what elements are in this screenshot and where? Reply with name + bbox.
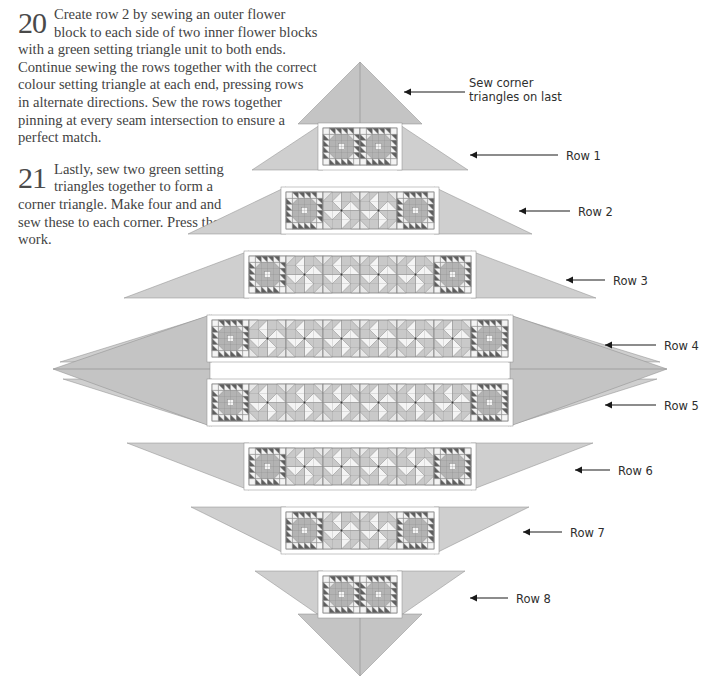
flower-corner-cell xyxy=(243,320,249,326)
flower-corner-cell xyxy=(428,543,434,549)
flower-corner-cell xyxy=(391,159,397,165)
flower-corner-cell xyxy=(434,287,440,293)
flower-corner-cell xyxy=(397,512,403,518)
flower-corner-cell xyxy=(280,448,286,454)
quilt-row xyxy=(249,448,471,485)
flower-corner-cell xyxy=(317,512,323,518)
flower-corner-cell xyxy=(397,543,403,549)
flower-corner-cell xyxy=(471,351,477,357)
callout-arrow-row-7 xyxy=(523,529,562,536)
setting-triangle-right xyxy=(471,443,593,490)
flower-corner-cell xyxy=(434,479,440,485)
callout-arrow-row-5 xyxy=(605,402,656,409)
flower-corner-cell xyxy=(360,159,366,165)
callout-arrow-corner-note-head xyxy=(404,89,411,96)
quilt-blocks xyxy=(207,123,513,618)
flower-corner-cell xyxy=(317,223,323,229)
flower-corner-cell xyxy=(249,256,255,262)
flower-corner-cell xyxy=(391,128,397,134)
callout-arrow-row-3 xyxy=(566,277,605,284)
quilt-row xyxy=(212,384,508,421)
callout-arrow-row-1-head xyxy=(470,152,477,159)
flower-corner-cell xyxy=(249,448,255,454)
callout-corner-note-line1: Sew corner xyxy=(469,76,562,90)
star-center-dot xyxy=(304,402,306,404)
flower-corner-cell xyxy=(502,415,508,421)
flower-corner-cell xyxy=(280,287,286,293)
flower-corner-cell xyxy=(428,512,434,518)
flower-corner-cell xyxy=(243,351,249,357)
flower-corner-cell xyxy=(502,320,508,326)
flower-corner-cell xyxy=(212,415,218,421)
flower-corner-cell xyxy=(502,351,508,357)
star-center-dot xyxy=(267,402,269,404)
flower-corner-cell xyxy=(434,256,440,262)
star-center-dot xyxy=(378,402,380,404)
star-center-dot xyxy=(378,338,380,340)
star-center-dot xyxy=(415,338,417,340)
flower-corner-cell xyxy=(397,192,403,198)
star-center-dot xyxy=(304,274,306,276)
star-center-dot xyxy=(415,466,417,468)
callout-label-row-4: Row 4 xyxy=(664,339,699,353)
star-center-dot xyxy=(415,402,417,404)
star-center-dot xyxy=(267,338,269,340)
flower-corner-cell xyxy=(434,448,440,454)
flower-corner-cell xyxy=(286,192,292,198)
callout-label-row-5: Row 5 xyxy=(664,399,699,413)
flower-corner-cell xyxy=(354,607,360,613)
setting-triangle-right xyxy=(397,123,468,170)
star-center-dot xyxy=(341,530,343,532)
callout-arrow-row-7-head xyxy=(523,529,530,536)
flower-corner-cell xyxy=(243,415,249,421)
setting-triangle-left xyxy=(252,123,323,170)
flower-corner-cell xyxy=(471,415,477,421)
flower-corner-cell xyxy=(212,320,218,326)
star-center-dot xyxy=(341,210,343,212)
flower-corner-cell xyxy=(317,543,323,549)
flower-corner-cell xyxy=(428,223,434,229)
flower-corner-cell xyxy=(249,479,255,485)
flower-corner-cell xyxy=(471,320,477,326)
star-center-dot xyxy=(415,274,417,276)
star-center-dot xyxy=(378,466,380,468)
callout-arrow-row-8-head xyxy=(470,595,477,602)
star-center-dot xyxy=(378,274,380,276)
flower-corner-cell xyxy=(354,159,360,165)
flower-corner-cell xyxy=(354,576,360,582)
star-center-dot xyxy=(341,338,343,340)
corner-triangle-right xyxy=(510,315,667,426)
callout-corner-note: Sew corner triangles on last xyxy=(469,76,562,104)
flower-corner-cell xyxy=(354,128,360,134)
quilt-row xyxy=(212,320,508,357)
callout-arrow-row-2-head xyxy=(519,208,526,215)
flower-corner-cell xyxy=(317,192,323,198)
callout-label-row-3: Row 3 xyxy=(613,274,648,288)
callout-label-row-6: Row 6 xyxy=(618,464,653,478)
quilt-diagram-svg xyxy=(0,0,719,700)
callout-label-row-1: Row 1 xyxy=(566,149,601,163)
flower-corner-cell xyxy=(280,479,286,485)
star-center-dot xyxy=(341,402,343,404)
setting-triangle-left xyxy=(188,187,286,234)
setting-triangle-left xyxy=(255,571,323,618)
flower-corner-cell xyxy=(323,159,329,165)
star-center-dot xyxy=(341,274,343,276)
callout-arrow-row-6-head xyxy=(575,467,582,474)
star-center-dot xyxy=(452,338,454,340)
callout-arrow-row-3-head xyxy=(566,277,573,284)
callout-arrow-row-2 xyxy=(519,208,570,215)
page-root: 20 Create row 2 by sewing an outer flowe… xyxy=(0,0,719,700)
setting-triangle-left xyxy=(191,507,286,554)
setting-triangle-left xyxy=(127,443,249,490)
flower-corner-cell xyxy=(249,287,255,293)
quilt-diagram xyxy=(0,0,719,700)
star-center-dot xyxy=(304,338,306,340)
star-center-dot xyxy=(378,530,380,532)
flower-corner-cell xyxy=(391,607,397,613)
flower-corner-cell xyxy=(428,192,434,198)
flower-corner-cell xyxy=(465,287,471,293)
flower-corner-cell xyxy=(391,576,397,582)
corner-triangle-left xyxy=(53,315,210,426)
callout-arrow-row-8 xyxy=(470,595,508,602)
